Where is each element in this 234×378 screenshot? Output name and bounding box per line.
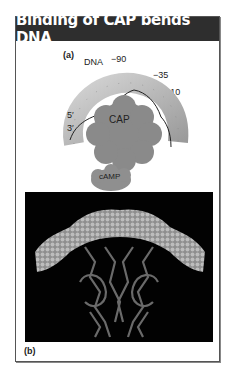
five-prime-label: 5′	[67, 110, 74, 120]
cap-label: CAP	[109, 114, 130, 125]
cap-dna-crystal-structure	[25, 192, 213, 342]
panel-a-label: (a)	[63, 50, 74, 60]
figure-title: Binding of CAP bends DNA	[16, 17, 219, 41]
panel-b-label: (b)	[24, 346, 36, 356]
cap-protein-shape	[86, 95, 162, 172]
figure-frame: Binding of CAP bends DNA (a) DNA −90 −35…	[15, 16, 220, 362]
three-prime-label: 3′	[67, 123, 74, 133]
panel-b-structure-image	[25, 192, 213, 342]
camp-label: cAMP	[99, 172, 120, 181]
